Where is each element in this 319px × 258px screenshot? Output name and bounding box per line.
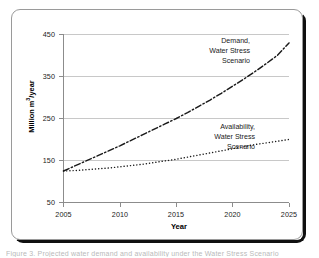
y-axis-title-prefix: Million m — [27, 101, 36, 133]
annotation-demand: Demand, Water Stress Scenario — [172, 36, 250, 67]
x-tick-label-2005: 2005 — [47, 210, 81, 219]
annotation-demand-line-3: Scenario — [172, 56, 250, 66]
y-tick-label-150: 150 — [29, 156, 55, 165]
annotation-availability-line-3: Scenario — [175, 142, 255, 152]
x-tick-label-2025: 2025 — [272, 210, 306, 219]
figure-frame: 450 350 250 150 50 2005 2010 2015 2020 2… — [11, 9, 303, 240]
annotation-availability-line-1: Availability, — [175, 122, 255, 132]
plot-area-svg — [12, 10, 304, 241]
annotation-availability: Availability, Water Stress Scenario — [175, 122, 255, 153]
y-axis-title-superscript: 3 — [25, 98, 31, 101]
x-axis-title: Year — [64, 222, 294, 231]
y-axis-title-suffix: /year — [27, 80, 36, 97]
x-tick-marks — [64, 203, 290, 207]
figure-caption-sliver: Figure 3. Projected water demand and ava… — [6, 250, 313, 257]
annotation-demand-line-1: Demand, — [172, 36, 250, 46]
y-axis-title: Million m3/year — [27, 64, 36, 150]
x-tick-label-2010: 2010 — [103, 210, 137, 219]
x-tick-label-2020: 2020 — [216, 210, 250, 219]
line-chart: 450 350 250 150 50 2005 2010 2015 2020 2… — [12, 10, 304, 241]
annotation-availability-line-2: Water Stress — [175, 132, 255, 142]
y-tick-label-50: 50 — [29, 198, 55, 207]
annotation-demand-line-2: Water Stress — [172, 46, 250, 56]
x-tick-label-2015: 2015 — [159, 210, 193, 219]
y-tick-marks — [59, 35, 63, 203]
y-tick-label-450: 450 — [29, 30, 55, 39]
